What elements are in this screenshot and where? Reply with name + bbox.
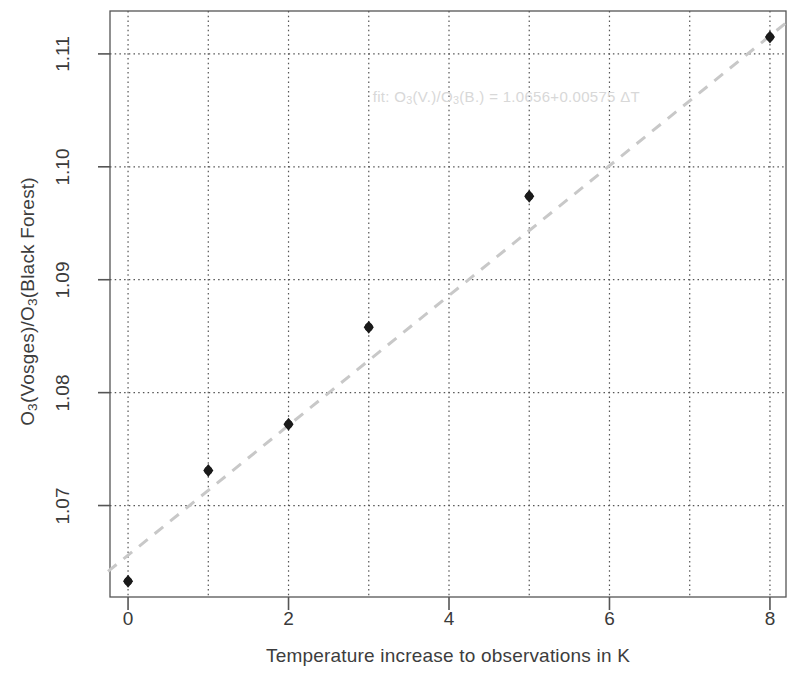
x-axis-label: Temperature increase to observations in … xyxy=(110,645,786,667)
y-tick-label: 1.10 xyxy=(52,138,74,196)
y-axis-label-part1: O xyxy=(17,411,38,426)
data-point xyxy=(364,321,374,334)
x-tick-label: 4 xyxy=(429,608,469,630)
x-tick-label: 0 xyxy=(108,608,148,630)
chart-figure: O3(Vosges)/O3(Black Forest) Temperature … xyxy=(0,0,788,683)
data-point xyxy=(123,575,133,588)
y-tick-label: 1.11 xyxy=(52,25,74,83)
y-tick-label: 1.09 xyxy=(52,251,74,309)
y-tick-label: 1.08 xyxy=(52,364,74,422)
x-tick-label: 6 xyxy=(589,608,629,630)
data-point xyxy=(765,30,775,43)
y-axis-label-sub1: 3 xyxy=(25,403,40,411)
y-axis-label-part3: (Black Forest) xyxy=(17,177,38,298)
y-axis-label-part2: (Vosges)/O xyxy=(17,306,38,403)
axis-ticks xyxy=(98,54,770,610)
data-points xyxy=(123,30,775,587)
x-tick-label: 2 xyxy=(269,608,309,630)
x-tick-label: 8 xyxy=(750,608,788,630)
annotation-part-c: (B.) = 1.0656+0.00575 ΔT xyxy=(459,88,640,105)
annotation-part-b: (V.)/O xyxy=(413,88,453,105)
y-axis-label: O3(Vosges)/O3(Black Forest) xyxy=(17,102,40,502)
y-axis-label-sub2: 3 xyxy=(25,298,40,306)
y-tick-label: 1.07 xyxy=(52,477,74,535)
fit-equation-annotation: fit: O3(V.)/O3(B.) = 1.0656+0.00575 ΔT xyxy=(373,88,640,106)
annotation-part-a: fit: O xyxy=(373,88,406,105)
data-point xyxy=(524,190,534,203)
data-point xyxy=(203,464,213,477)
